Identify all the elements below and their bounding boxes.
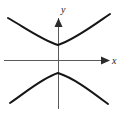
hyperbola-figure: y x: [0, 0, 119, 114]
graph-canvas: y x: [0, 0, 119, 114]
x-axis-label: x: [111, 55, 117, 66]
x-axis-arrow-icon: [101, 57, 110, 65]
y-axis-arrow-icon: [55, 18, 63, 27]
y-axis-label: y: [60, 4, 66, 15]
